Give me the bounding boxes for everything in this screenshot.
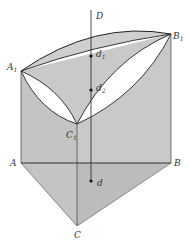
point-d1 bbox=[89, 54, 92, 57]
label-c: C bbox=[74, 230, 81, 240]
label-d-axis: D bbox=[95, 11, 103, 21]
point-d2 bbox=[89, 88, 92, 91]
label-a: A bbox=[9, 158, 17, 168]
point-d bbox=[89, 179, 92, 182]
label-a1: A1 bbox=[6, 62, 17, 73]
label-b1: B1 bbox=[172, 31, 183, 42]
label-b: B bbox=[173, 158, 181, 168]
prism-diagram: D A1 B1 C1 A B C d1 d2 d bbox=[0, 0, 189, 245]
label-d: d bbox=[97, 178, 103, 188]
